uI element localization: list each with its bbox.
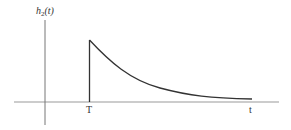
signal-plot bbox=[0, 0, 291, 130]
decay-curve bbox=[90, 40, 253, 99]
diagram-canvas: h2(t) T t bbox=[0, 0, 291, 130]
y-axis-label: h2(t) bbox=[36, 6, 54, 18]
marker-label-T: T bbox=[86, 105, 92, 115]
x-axis-label: t bbox=[249, 105, 252, 115]
